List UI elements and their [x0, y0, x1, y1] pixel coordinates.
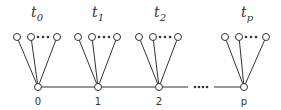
vertex-label-0: 0 — [35, 96, 41, 107]
vertex-label-p: p — [241, 96, 247, 107]
tree-label-p: tp — [241, 4, 253, 23]
vertex-label-2: 2 — [156, 96, 162, 107]
vertex-label-1: 1 — [95, 96, 101, 107]
tree-label-1: t1 — [92, 4, 104, 23]
ellipsis-dots — [37, 36, 258, 89]
tree-chain-diagram: t0 t1 t2 tp 0 1 2 p — [0, 0, 281, 110]
tree-label-0: t0 — [31, 4, 43, 23]
tree-label-2: t2 — [154, 4, 166, 23]
